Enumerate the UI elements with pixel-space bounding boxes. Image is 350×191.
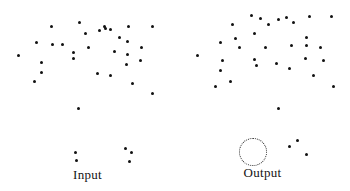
scatter-point (330, 15, 333, 18)
scatter-point (253, 32, 256, 35)
scatter-point (87, 46, 90, 49)
scatter-point (288, 145, 291, 148)
scatter-point (219, 41, 222, 44)
scatter-point (50, 25, 53, 28)
scatter-point (319, 46, 322, 49)
scatter-point (124, 147, 127, 150)
scatter-point (139, 59, 142, 62)
scatter-point (17, 54, 20, 57)
scatter-point (77, 107, 80, 110)
scatter-point (109, 28, 112, 31)
scatter-point (125, 63, 128, 66)
scatter-point (127, 25, 130, 28)
scatter-point (259, 17, 262, 20)
scatter-point (84, 32, 87, 35)
scatter-point (229, 80, 232, 83)
merged-pair-highlight-circle (239, 138, 267, 166)
scatter-point (151, 92, 154, 95)
scatter-point (234, 37, 237, 40)
scatter-point (322, 59, 325, 62)
scatter-point (104, 27, 107, 30)
scatter-point (40, 71, 43, 74)
scatter-point (267, 23, 270, 26)
scatter-point (72, 57, 75, 60)
scatter-point (109, 74, 112, 77)
scatter-point (113, 50, 116, 53)
scatter-plot-input (0, 0, 175, 170)
scatter-point (196, 54, 199, 57)
scatter-point (151, 25, 154, 28)
scatter-point (305, 36, 308, 39)
panel-label-input: Input (0, 167, 175, 183)
scatter-point (40, 61, 43, 64)
scatter-plot-output (175, 0, 350, 170)
scatter-point (126, 40, 129, 43)
scatter-point (277, 107, 280, 110)
scatter-point (140, 46, 143, 49)
scatter-point (255, 64, 258, 67)
scatter-point (277, 18, 280, 21)
scatter-point (75, 159, 78, 162)
scatter-point (130, 151, 133, 154)
panel-label-output: Output (175, 165, 350, 181)
scatter-point (250, 14, 253, 17)
scatter-point (221, 59, 224, 62)
scatter-point (33, 80, 36, 83)
scatter-point (98, 29, 101, 32)
scatter-point (238, 46, 241, 49)
scatter-point (74, 151, 77, 154)
scatter-point (219, 69, 222, 72)
scatter-point (253, 58, 256, 61)
scatter-point (131, 82, 134, 85)
scatter-point (290, 44, 293, 47)
scatter-point (231, 23, 234, 26)
scatter-point (312, 74, 315, 77)
scatter-point (332, 85, 335, 88)
scatter-point (308, 15, 311, 18)
panel-output: Output (175, 0, 350, 191)
scatter-point (292, 21, 295, 24)
scatter-point (304, 57, 307, 60)
scatter-point (61, 43, 64, 46)
scatter-point (285, 16, 288, 19)
scatter-point (214, 85, 217, 88)
scatter-point (305, 44, 308, 47)
scatter-point (126, 53, 129, 56)
scatter-point (78, 21, 81, 24)
panel-input: Input (0, 0, 175, 191)
scatter-figure: Input Output (0, 0, 350, 191)
scatter-point (72, 51, 75, 54)
scatter-point (305, 153, 308, 156)
scatter-point (275, 62, 278, 65)
scatter-point (288, 67, 291, 70)
scatter-point (51, 43, 54, 46)
scatter-point (264, 46, 267, 49)
scatter-point (296, 139, 299, 142)
scatter-point (96, 72, 99, 75)
scatter-point (128, 160, 131, 163)
scatter-point (118, 36, 121, 39)
scatter-point (35, 41, 38, 44)
